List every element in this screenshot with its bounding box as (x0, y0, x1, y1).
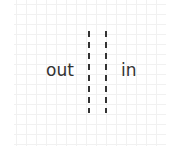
boundary-dashed-line-right (105, 31, 107, 113)
label-out: out (46, 62, 74, 79)
label-in: in (121, 62, 137, 79)
boundary-dashed-line-left (88, 31, 90, 113)
grid-canvas (14, 0, 166, 146)
